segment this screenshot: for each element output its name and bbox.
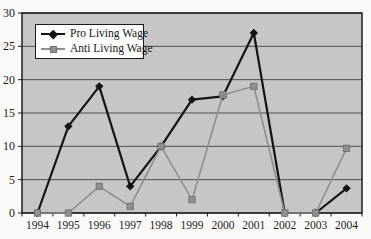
y-axis-label: 30 (3, 6, 15, 20)
legend-entry-anti: Anti Living Wage (41, 42, 140, 56)
legend-entry-pro: Pro Living Wage (41, 27, 140, 41)
anti-living-wage-point-2000 (220, 92, 226, 98)
anti-living-wage-point-2001 (251, 83, 257, 89)
y-axis-label: 0 (9, 206, 15, 220)
y-axis-label: 15 (3, 106, 15, 120)
anti-living-wage-point-1995 (65, 210, 71, 216)
x-axis-label: 1995 (57, 219, 80, 231)
anti-living-wage-point-2004 (343, 145, 349, 151)
anti-living-wage-point-1994 (34, 210, 40, 216)
x-axis-label: 1998 (150, 219, 173, 231)
anti-living-wage-point-1998 (158, 143, 164, 149)
x-axis-label: 1994 (26, 219, 49, 231)
x-axis-label: 1999 (181, 219, 204, 231)
x-axis-label: 2003 (304, 219, 327, 231)
x-axis-label: 2002 (273, 219, 296, 231)
square-marker-icon (50, 46, 57, 53)
anti-living-wage-point-1996 (96, 183, 102, 189)
anti-living-wage-point-2003 (312, 210, 318, 216)
x-axis-label: 1996 (88, 219, 111, 231)
legend: Pro Living Wage Anti Living Wage (35, 24, 144, 59)
diamond-marker-icon (48, 29, 57, 38)
x-axis-label: 2000 (211, 219, 234, 231)
y-axis-label: 20 (3, 73, 15, 87)
living-wage-chart-figure: 0510152025301994199519961997199819992000… (0, 0, 371, 239)
y-axis-label: 10 (3, 139, 15, 153)
pro-line-swatch (41, 30, 65, 39)
legend-label-anti: Anti Living Wage (70, 43, 153, 55)
y-axis-label: 25 (3, 39, 15, 53)
x-axis-label: 1997 (119, 219, 142, 231)
anti-living-wage-point-1999 (189, 196, 195, 202)
anti-living-wage-point-1997 (127, 203, 133, 209)
x-axis-label: 2004 (335, 219, 358, 231)
x-axis-label: 2001 (242, 219, 265, 231)
anti-line-swatch (41, 45, 65, 54)
anti-living-wage-point-2002 (282, 210, 288, 216)
legend-label-pro: Pro Living Wage (70, 28, 148, 40)
y-axis-label: 5 (9, 173, 15, 187)
